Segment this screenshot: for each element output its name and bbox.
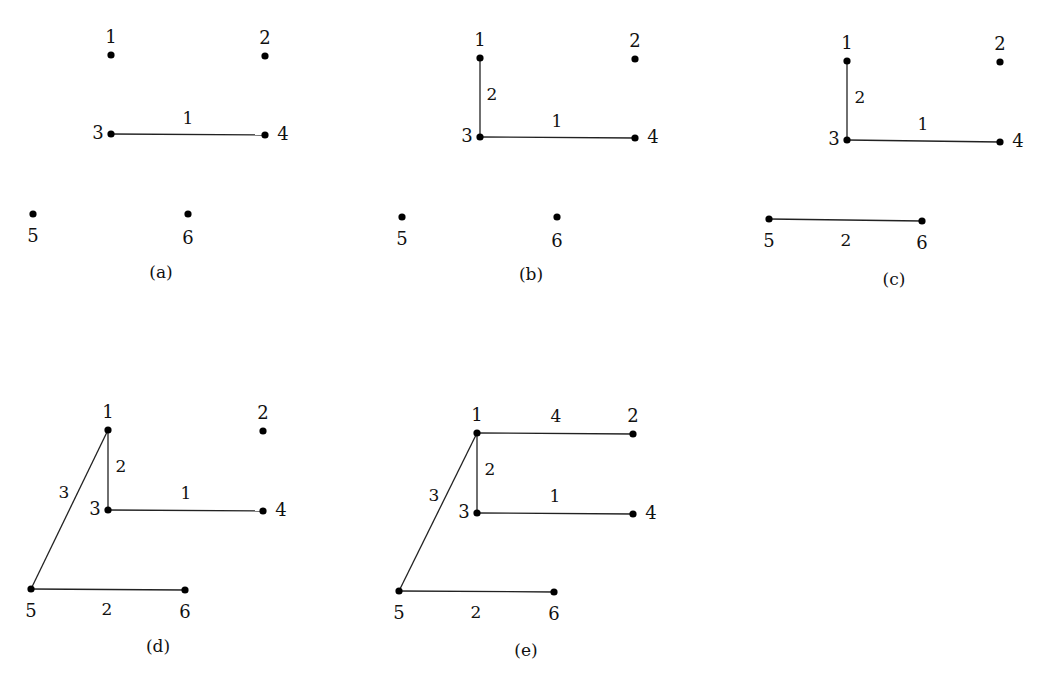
edge-weight-label: 2: [116, 456, 127, 476]
vertex-label: 4: [275, 499, 286, 520]
vertex-label: 3: [828, 128, 839, 149]
vertex-label: 5: [396, 228, 407, 249]
edge-weight-label: 1: [552, 111, 563, 131]
vertex-dot-5: [765, 215, 772, 222]
edge-weight-label: 1: [181, 483, 192, 503]
vertex-label: 1: [841, 32, 852, 53]
vertex-label: 1: [474, 29, 485, 50]
vertex-label: 1: [471, 404, 482, 425]
vertex-dot-3: [104, 506, 111, 513]
edge-weight-label: 2: [485, 459, 496, 479]
vertex-label: 4: [1012, 130, 1023, 151]
vertex-label: 5: [25, 600, 36, 621]
edge-3-4: [477, 513, 633, 514]
edge-weight-label: 2: [487, 84, 498, 104]
edge-weight-label: 1: [550, 486, 561, 506]
vertex-dot-6: [184, 210, 191, 217]
edge-3-4: [847, 140, 1000, 142]
vertex-dot-2: [631, 55, 638, 62]
vertex-dot-5: [395, 587, 402, 594]
edge-weight-label: 4: [551, 406, 562, 426]
edge-weight-label: 1: [183, 108, 194, 128]
edge-weight-label: 3: [429, 485, 440, 505]
edge-weight-label: 2: [841, 230, 852, 250]
vertex-dot-3: [476, 133, 483, 140]
vertex-dot-4: [259, 507, 266, 514]
vertex-dot-3: [473, 509, 480, 516]
vertex-dot-1: [107, 51, 114, 58]
edge-weight-label: 1: [918, 114, 929, 134]
vertex-dot-6: [553, 213, 560, 220]
edge-weight-label: 2: [102, 599, 113, 619]
vertex-dot-4: [629, 510, 636, 517]
graph-panel-e: 12234123456(e): [393, 404, 656, 660]
vertex-label: 1: [105, 26, 116, 47]
vertex-label: 6: [916, 232, 927, 253]
vertex-dot-2: [629, 430, 636, 437]
edge-1-2: [477, 433, 633, 434]
mst-construction-figure: 1123456(a)12123456(b)122123456(c)1223123…: [0, 0, 1046, 677]
edge-5-6: [399, 591, 554, 592]
vertex-label: 3: [92, 122, 103, 143]
vertex-label: 6: [551, 230, 562, 251]
vertex-dot-5: [27, 585, 34, 592]
vertex-dot-1: [104, 426, 111, 433]
vertex-label: 2: [259, 27, 270, 48]
vertex-label: 5: [393, 602, 404, 623]
vertex-label: 4: [277, 123, 288, 144]
vertex-dot-6: [181, 586, 188, 593]
vertex-dot-3: [843, 136, 850, 143]
vertex-dot-2: [261, 52, 268, 59]
graph-panel-d: 1223123456(d): [25, 401, 286, 656]
vertex-dot-1: [843, 57, 850, 64]
edge-5-6: [769, 219, 922, 221]
edge-3-4: [480, 137, 635, 138]
edge-weight-label: 3: [59, 482, 70, 502]
vertex-dot-6: [918, 217, 925, 224]
edge-weight-label: 2: [855, 87, 866, 107]
vertex-label: 6: [179, 601, 190, 622]
vertex-label: 3: [458, 501, 469, 522]
vertex-label: 3: [89, 498, 100, 519]
graph-panel-a: 1123456(a): [27, 26, 288, 282]
vertex-dot-5: [29, 210, 36, 217]
vertex-label: 5: [27, 225, 38, 246]
vertex-dot-4: [261, 131, 268, 138]
graph-panel-b: 12123456(b): [396, 29, 658, 284]
vertex-dot-1: [473, 429, 480, 436]
vertex-label: 1: [102, 401, 113, 422]
vertex-dot-4: [631, 134, 638, 141]
edge-3-4: [111, 134, 265, 135]
vertex-dot-2: [996, 58, 1003, 65]
vertex-label: 6: [182, 227, 193, 248]
vertex-label: 4: [647, 126, 658, 147]
vertex-label: 4: [645, 502, 656, 523]
vertex-dot-3: [107, 130, 114, 137]
edge-5-6: [31, 589, 185, 590]
vertex-dot-2: [259, 427, 266, 434]
vertex-dot-5: [398, 213, 405, 220]
vertex-label: 2: [629, 30, 640, 51]
panel-caption: (b): [519, 264, 543, 284]
vertex-label: 2: [627, 405, 638, 426]
vertex-label: 5: [763, 230, 774, 251]
edge-weight-label: 2: [471, 602, 482, 622]
vertex-dot-1: [476, 54, 483, 61]
graph-panel-c: 122123456(c): [763, 32, 1023, 289]
vertex-label: 3: [461, 125, 472, 146]
panel-caption: (d): [146, 636, 170, 656]
vertex-dot-6: [550, 588, 557, 595]
vertex-dot-4: [996, 138, 1003, 145]
edge-3-4: [108, 510, 263, 511]
panel-caption: (c): [883, 269, 906, 289]
panel-caption: (a): [149, 262, 172, 282]
vertex-label: 2: [257, 402, 268, 423]
vertex-label: 2: [994, 33, 1005, 54]
panel-caption: (e): [514, 640, 537, 660]
vertex-label: 6: [548, 603, 559, 624]
